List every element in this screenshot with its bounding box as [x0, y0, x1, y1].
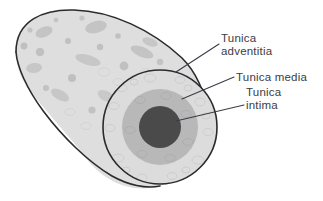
layer-tunica-intima-lumen	[139, 106, 181, 148]
label-tunica-intima: Tunica intima	[246, 86, 281, 111]
label-tunica-adventitia-line1: Tunica	[221, 32, 272, 45]
label-tunica-intima-line1: Tunica	[246, 86, 281, 99]
label-tunica-media: Tunica media	[236, 71, 307, 84]
label-tunica-adventitia-line2: adventitia	[221, 45, 272, 58]
label-tunica-intima-line2: intima	[246, 99, 281, 112]
label-tunica-media-line1: Tunica media	[236, 71, 307, 84]
cross-section	[103, 70, 217, 184]
label-tunica-adventitia: Tunica adventitia	[221, 32, 272, 57]
